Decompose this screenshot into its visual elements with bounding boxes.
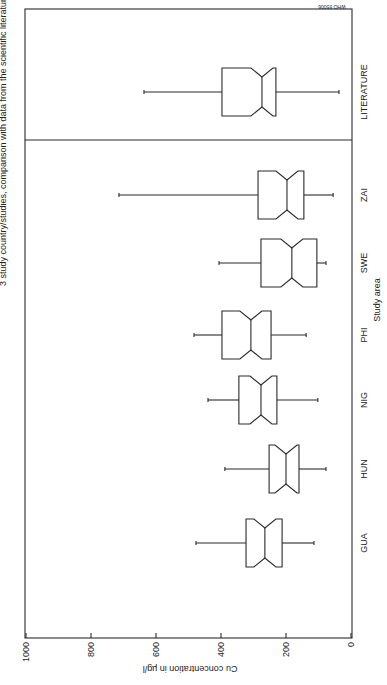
category-label: ZAI xyxy=(359,188,369,202)
category-labels: GUAHUNNIGPHISWEZAILITERATURE xyxy=(359,64,369,552)
box-body xyxy=(258,171,304,219)
box-body xyxy=(246,519,282,567)
box-body xyxy=(261,239,317,287)
plot-border xyxy=(25,9,352,638)
boxplot-figure: 02004006008001000 GUAHUNNIGPHISWEZAILITE… xyxy=(0,0,387,685)
category-label: LITERATURE xyxy=(359,64,369,119)
category-axis-label: Study area xyxy=(372,278,382,322)
axis-tick-label: 400 xyxy=(216,642,226,657)
axis-tick-label: 0 xyxy=(346,642,356,647)
axis-tick-label: 200 xyxy=(281,642,291,657)
box-nig xyxy=(208,376,318,424)
figure-title: 3 study country/studies, comparison with… xyxy=(0,0,8,286)
box-gua xyxy=(196,519,314,567)
category-label: HUN xyxy=(359,459,369,479)
axis-tick-label: 600 xyxy=(151,642,161,657)
category-label: SWE xyxy=(359,253,369,274)
box-hun xyxy=(225,445,326,493)
box-swe xyxy=(219,239,326,287)
value-axis-label: Cu concentration in µg/l xyxy=(143,664,238,674)
box-literature xyxy=(144,68,339,116)
category-label: PHI xyxy=(359,327,369,342)
box-zai xyxy=(119,171,333,219)
axis-tick-label: 800 xyxy=(86,642,96,657)
plot-frame xyxy=(25,9,352,638)
figure-watermark: WHO 85006 xyxy=(318,4,346,10)
axis-tick-label: 1000 xyxy=(21,642,31,662)
category-label: NIG xyxy=(359,392,369,408)
box-body xyxy=(222,311,271,359)
box-body xyxy=(239,376,277,424)
category-label: GUA xyxy=(359,533,369,553)
value-axis: 02004006008001000 xyxy=(21,633,356,662)
box-series xyxy=(119,68,339,567)
box-phi xyxy=(194,311,306,359)
boxplot-chart: 02004006008001000 GUAHUNNIGPHISWEZAILITE… xyxy=(0,0,387,685)
box-body xyxy=(222,68,276,116)
box-body xyxy=(269,445,299,493)
